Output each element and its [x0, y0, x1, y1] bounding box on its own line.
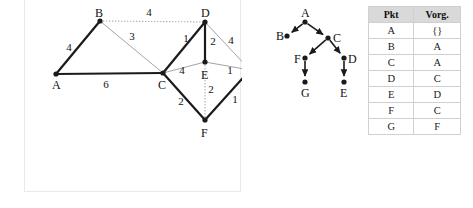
table-header-vorg: Vorg.: [414, 7, 461, 23]
tree-node-G: [302, 79, 307, 84]
table-cell-vorg: F: [414, 119, 461, 135]
table-row: GF: [369, 119, 461, 135]
tree-node-F: [302, 55, 307, 60]
tree-node-label-D: D: [348, 52, 357, 66]
tree-node-D: [341, 55, 346, 60]
graph-edge-weight-CF: 2: [178, 95, 184, 107]
graph-edge-weight-BD: 4: [146, 6, 152, 18]
predecessor-table: Pkt Vorg. A{}BACADCEDFCGF: [368, 6, 461, 135]
graph-edge-weight-EG: 1: [227, 64, 233, 76]
graph-edge-weight-DG: 4: [228, 34, 234, 46]
table-row: FC: [369, 103, 461, 119]
graph-diagram: 464314224211 ABCDEFG: [25, 0, 242, 192]
graph-edge-weight-AC: 6: [103, 78, 109, 90]
tree-panel: ABCFDGE: [258, 0, 363, 130]
graph-node-label-F: F: [201, 126, 208, 140]
graph-node-label-D: D: [201, 6, 210, 20]
table-cell-pkt: F: [369, 103, 414, 119]
graph-node-label-B: B: [95, 6, 103, 20]
table-cell-pkt: E: [369, 87, 414, 103]
table-header-pkt: Pkt: [369, 7, 414, 23]
graph-edge-weight-CE: 4: [179, 64, 185, 76]
tree-edge-AB: [292, 24, 303, 32]
table-cell-pkt: B: [369, 39, 414, 55]
table-cell-pkt: D: [369, 71, 414, 87]
table-row: CA: [369, 55, 461, 71]
table-cell-vorg: C: [414, 103, 461, 119]
tree-node-label-C: C: [333, 31, 341, 45]
table-row: BA: [369, 39, 461, 55]
graph-node-A: [53, 71, 58, 76]
tree-node-label-A: A: [301, 6, 310, 20]
tree-node-label-B: B: [276, 29, 284, 43]
table-body: A{}BACADCEDFCGF: [369, 23, 461, 135]
graph-edge-weight-BC: 3: [129, 30, 135, 42]
table-cell-pkt: C: [369, 55, 414, 71]
tree-node-C: [325, 35, 330, 40]
tree-node-A: [302, 19, 307, 24]
graph-node-label-C: C: [158, 78, 166, 92]
tree-edge-CF: [310, 40, 326, 54]
graph-panel: 464314224211 ABCDEFG: [24, 0, 241, 192]
graph-node-C: [160, 70, 165, 75]
graph-edge-weight-DE: 2: [210, 35, 216, 47]
table-cell-vorg: A: [414, 55, 461, 71]
screenshot-root: 464314224211 ABCDEFG ABCFDGE Pkt Vorg.: [0, 0, 473, 208]
tree-node-label-E: E: [340, 86, 347, 100]
table-cell-pkt: A: [369, 23, 414, 39]
tree-node-label-F: F: [294, 52, 301, 66]
graph-node-E: [202, 59, 207, 64]
table-header-row: Pkt Vorg.: [369, 7, 461, 23]
graph-edge-weight-CD: 1: [183, 32, 189, 44]
graph-node-D: [202, 19, 207, 24]
graph-node-label-E: E: [201, 68, 208, 82]
tree-edge-AC: [307, 24, 323, 35]
table-row: ED: [369, 87, 461, 103]
table-cell-vorg: C: [414, 71, 461, 87]
graph-edge-CF: [163, 73, 205, 120]
graph-node-F: [202, 117, 207, 122]
table-cell-vorg: A: [414, 39, 461, 55]
graph-edge-weight-FG: 1: [232, 93, 238, 105]
tree-node-E: [341, 79, 346, 84]
predecessor-table-panel: Pkt Vorg. A{}BACADCEDFCGF: [368, 6, 461, 135]
tree-diagram: ABCFDGE: [258, 0, 363, 130]
graph-edge-AC: [56, 73, 163, 74]
graph-edge-weight-AB: 4: [66, 41, 72, 53]
tree-node-label-G: G: [301, 86, 310, 100]
graph-edge-AB: [56, 21, 100, 74]
tree-node-B: [284, 33, 289, 38]
table-row: A{}: [369, 23, 461, 39]
table-cell-pkt: G: [369, 119, 414, 135]
graph-edge-BD: [100, 21, 205, 22]
graph-edge-BC: [100, 21, 163, 73]
tree-node-labels: ABCFDGE: [276, 6, 357, 100]
table-cell-vorg: {}: [414, 23, 461, 39]
graph-node-label-A: A: [52, 78, 61, 92]
table-cell-vorg: D: [414, 87, 461, 103]
graph-edge-EG: [205, 62, 242, 70]
graph-edge-weight-EF: 2: [208, 83, 214, 95]
table-row: DC: [369, 71, 461, 87]
